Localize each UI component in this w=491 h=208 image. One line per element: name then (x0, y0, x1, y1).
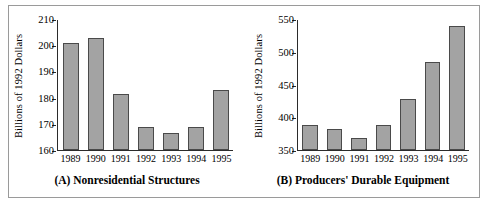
chart-caption-a: (A) Nonresidential Structures (9, 174, 245, 186)
bar-1989[interactable] (302, 125, 318, 150)
y-tick-label: 550 (278, 13, 294, 26)
chart-panel-b: Billions of 1992 Dollars 350400450500550… (245, 6, 481, 197)
bar-1994[interactable] (425, 62, 441, 150)
bar-group-a (58, 20, 233, 150)
plot-area-a: 160170180190200210 (57, 20, 233, 151)
bar-1995[interactable] (449, 26, 465, 150)
y-tick-label: 190 (38, 65, 54, 78)
bar-1989[interactable] (63, 43, 79, 150)
bar-1993[interactable] (400, 99, 416, 150)
x-tick-label-1992: 1992 (133, 153, 158, 164)
x-axis-line-a (57, 150, 233, 151)
y-tick-label: 170 (38, 118, 54, 131)
x-tick-label-1994: 1994 (184, 153, 209, 164)
bar-slot (371, 20, 395, 150)
y-tick-label: 400 (278, 111, 294, 124)
bar-slot (396, 20, 420, 150)
bar-1990[interactable] (327, 129, 343, 150)
bar-1993[interactable] (163, 133, 179, 150)
bar-1991[interactable] (113, 94, 129, 150)
x-tick-label-1990: 1990 (83, 153, 108, 164)
bar-slot (133, 20, 158, 150)
bar-1991[interactable] (351, 138, 367, 150)
bar-1992[interactable] (376, 125, 392, 150)
bar-slot (158, 20, 183, 150)
y-tick-label: 160 (38, 144, 54, 157)
y-tick-label: 500 (278, 46, 294, 59)
x-tick-label-1989: 1989 (298, 153, 323, 164)
x-tick-label-1991: 1991 (347, 153, 372, 164)
bar-1995[interactable] (213, 90, 229, 150)
bar-group-b (298, 20, 469, 150)
y-tick-label: 210 (38, 13, 54, 26)
bar-slot (322, 20, 346, 150)
x-tick-label-1994: 1994 (421, 153, 446, 164)
y-axis-title-b: Billions of 1992 Dollars (253, 16, 267, 156)
bar-1992[interactable] (138, 127, 154, 150)
y-axis-title-a: Billions of 1992 Dollars (13, 16, 27, 156)
x-tick-label-1995: 1995 (209, 153, 234, 164)
x-tick-label-group-b: 1989199019911992199319941995 (298, 153, 470, 164)
chart-caption-b: (B) Producers' Durable Equipment (245, 174, 481, 186)
bar-1990[interactable] (88, 38, 104, 150)
x-tick-label-group-a: 1989199019911992199319941995 (58, 153, 234, 164)
bar-slot (298, 20, 322, 150)
x-tick-label-1989: 1989 (58, 153, 83, 164)
bar-slot (183, 20, 208, 150)
bar-slot (420, 20, 444, 150)
bar-slot (58, 20, 83, 150)
y-tick-label: 350 (278, 144, 294, 157)
figure-frame: Billions of 1992 Dollars 160170180190200… (8, 5, 480, 198)
y-tick-label: 450 (278, 79, 294, 92)
y-tick-label: 200 (38, 39, 54, 52)
plot-area-b: 350400450500550 (297, 20, 469, 151)
chart-panel-a: Billions of 1992 Dollars 160170180190200… (9, 6, 245, 197)
bar-slot (108, 20, 133, 150)
x-tick-label-1993: 1993 (159, 153, 184, 164)
x-tick-label-1992: 1992 (372, 153, 397, 164)
x-tick-label-1991: 1991 (108, 153, 133, 164)
y-tick-label: 180 (38, 92, 54, 105)
x-tick-label-1993: 1993 (396, 153, 421, 164)
bar-slot (83, 20, 108, 150)
x-tick-label-1990: 1990 (323, 153, 348, 164)
bar-slot (208, 20, 233, 150)
x-axis-line-b (297, 150, 469, 151)
bar-slot (445, 20, 469, 150)
x-tick-label-1995: 1995 (445, 153, 470, 164)
bar-1994[interactable] (188, 127, 204, 150)
bar-slot (347, 20, 371, 150)
